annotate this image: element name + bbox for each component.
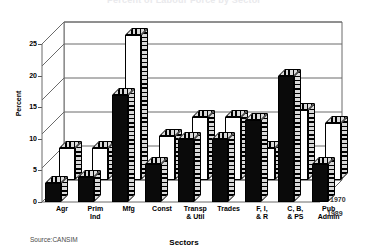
bar-face [145,164,161,202]
y-tick-label: 25 [19,40,37,47]
bar-side [261,113,268,202]
chart-title: Percent of Labour Force by Sector [0,0,368,5]
x-category-line: & Util [173,213,217,221]
bar-1989-7 [278,76,294,202]
bar-1989-0 [45,183,61,202]
bar-face [312,164,328,202]
bar-side [194,132,201,202]
bar-side [161,157,168,202]
bar-side [341,116,348,180]
x-axis-title: Sectors [0,238,368,247]
y-tick-label: 10 [19,135,37,142]
y-tick-label: 15 [19,103,37,110]
legend-1989: 1989 [327,210,343,217]
bar-side [328,157,335,202]
bar-face [45,183,61,202]
x-category-line: Ind [73,213,117,221]
y-tick-label: 20 [19,72,37,79]
bar-face [112,95,128,202]
bar-side [294,69,301,202]
bar-face [178,139,194,202]
plot-area [42,22,342,202]
bar-1989-2 [112,95,128,202]
y-tick-label: 0 [19,198,37,205]
bar-1989-8 [312,164,328,202]
bar-side [141,28,148,180]
bar-1989-3 [145,164,161,202]
bar-series-layer [42,22,342,202]
bar-1989-5 [212,139,228,202]
bar-1989-1 [78,177,94,202]
bar-face [78,177,94,202]
bar-side [128,88,135,202]
bar-face [245,120,261,202]
y-tick-label: 5 [19,166,37,173]
x-axis-categories: AgrPrimIndMfgConstTransp& UtilTradesF, I… [42,205,344,235]
bar-side [228,132,235,202]
bar-face [278,76,294,202]
chart-root: Percent of Labour Force by Sector Percen… [0,0,368,251]
bar-1989-4 [178,139,194,202]
bar-face [212,139,228,202]
bar-1989-6 [245,120,261,202]
